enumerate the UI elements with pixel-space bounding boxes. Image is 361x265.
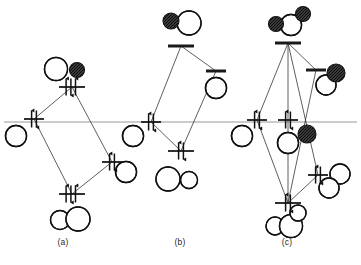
center-orbital-1-dark-lobe (298, 125, 316, 143)
top-orbital-0-lobe-inner (45, 58, 67, 80)
right-orbital-0-lobe-inner (116, 162, 136, 182)
correlation-line (72, 162, 112, 194)
left-orbital-0-lobe-inner (123, 126, 143, 146)
left-orbital-0-lobe-inner (232, 126, 252, 146)
panel-label-c: (c) (267, 237, 307, 247)
right-upper-orbital-0-dark-lobe (327, 64, 345, 82)
correlation-line (181, 46, 216, 71)
correlation-line (257, 120, 288, 203)
bottom-orbital-0-lobe-inner (157, 168, 180, 191)
correlation-line (288, 43, 318, 175)
panel-label-b: (b) (160, 237, 200, 247)
correlation-line (257, 43, 288, 120)
correlation-line (151, 46, 181, 122)
top-orbital-1-dark-lobe (70, 63, 85, 78)
bottom-orbital-1-lobe-inner (181, 172, 197, 188)
left-orbital-0-lobe-inner (6, 126, 26, 146)
correlation-line (34, 119, 72, 194)
top-orbital-0-dark-lobe (269, 17, 284, 32)
correlation-line (151, 122, 181, 151)
panel-label-a: (a) (43, 237, 83, 247)
right-lower-orbital-1-lobe-inner (320, 179, 339, 198)
top-orbital-2-dark-lobe (296, 7, 311, 22)
figure-container: (a) (b) (c) (0, 0, 361, 265)
orbital-diagram-canvas (0, 0, 361, 265)
bottom-orbital-1-lobe-inner (67, 208, 90, 231)
right-orbital-0-lobe-inner (206, 78, 226, 98)
correlation-line (72, 87, 112, 162)
center-orbital-0-lobe-inner (278, 133, 298, 153)
top-orbital-1-lobe-inner (178, 12, 201, 35)
bottom-orbital-2-lobe-inner (291, 206, 306, 221)
correlation-line (288, 43, 316, 70)
top-orbital-0-dark-lobe (163, 13, 179, 29)
correlation-line (288, 175, 318, 203)
